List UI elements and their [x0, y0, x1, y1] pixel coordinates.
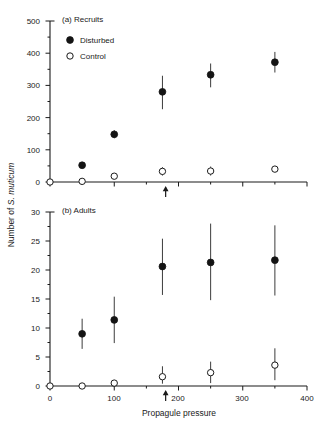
- data-point-control: [159, 168, 165, 174]
- data-point-control: [79, 383, 85, 389]
- data-point-control: [207, 168, 213, 174]
- arrow-head-icon: [163, 390, 169, 395]
- legend-marker-disturbed: [67, 37, 74, 44]
- data-point-control: [207, 369, 213, 375]
- plot-canvas: [0, 0, 324, 432]
- figure-container: Number of S. muticum Propagule pressure …: [0, 0, 324, 432]
- data-point-disturbed: [159, 88, 166, 95]
- data-point-control: [272, 362, 278, 368]
- data-point-control: [111, 380, 117, 386]
- data-point-disturbed: [111, 131, 118, 138]
- data-point-disturbed: [271, 257, 278, 264]
- data-point-disturbed: [111, 316, 118, 323]
- data-point-control: [159, 374, 165, 380]
- data-point-control: [272, 166, 278, 172]
- data-point-control: [111, 173, 117, 179]
- arrow-head-icon: [163, 186, 169, 191]
- data-point-disturbed: [271, 59, 278, 66]
- panel-a-plot-area: [46, 21, 308, 197]
- data-point-disturbed: [159, 263, 166, 270]
- legend-marker-control: [67, 53, 73, 59]
- data-point-disturbed: [79, 162, 86, 169]
- panel-b-plot-area: [46, 212, 308, 401]
- data-point-disturbed: [207, 259, 214, 266]
- data-point-control: [79, 178, 85, 184]
- data-point-disturbed: [79, 330, 86, 337]
- data-point-disturbed: [207, 71, 214, 78]
- data-point-control: [47, 179, 53, 185]
- data-point-control: [47, 383, 53, 389]
